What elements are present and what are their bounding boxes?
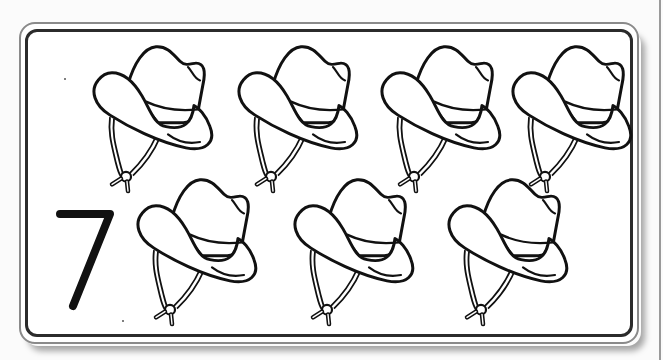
cowboy-hat-icon <box>132 175 258 327</box>
page-edge-line <box>659 0 661 360</box>
cowboy-hat-icon <box>233 42 359 194</box>
cowboy-hat-icon <box>443 175 569 327</box>
cowboy-hat-icon <box>289 175 415 327</box>
print-speck <box>64 78 66 80</box>
cowboy-hat-icon <box>507 42 633 194</box>
numeral-seven: 7 <box>48 186 124 316</box>
cowboy-hat-icon <box>88 42 214 194</box>
cowboy-hat-icon <box>376 42 502 194</box>
print-speck <box>122 320 124 322</box>
